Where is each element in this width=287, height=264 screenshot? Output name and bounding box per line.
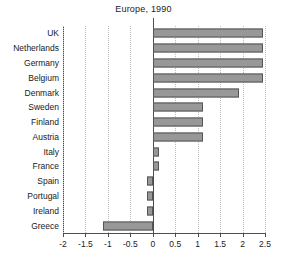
bar-row (63, 130, 265, 145)
bar-row (63, 144, 265, 159)
bar-spain (147, 177, 152, 186)
x-tick-mark-0 (63, 233, 64, 237)
y-tick-label-netherlands: Netherlands (0, 43, 59, 53)
bar-austria (153, 132, 203, 141)
bar-belgium (153, 73, 263, 82)
y-tick-label-ireland: Ireland (0, 206, 59, 216)
bar-row (63, 115, 265, 130)
bar-row (63, 174, 265, 189)
bar-italy (153, 147, 160, 156)
x-tick-mark-6 (198, 233, 199, 237)
y-tick-label-greece: Greece (0, 221, 59, 231)
y-tick-label-finland: Finland (0, 117, 59, 127)
y-tick-label-italy: Italy (0, 147, 59, 157)
y-tick-label-austria: Austria (0, 132, 59, 142)
gridline-x-9 (265, 26, 266, 233)
bar-row (63, 100, 265, 115)
bar-row (63, 70, 265, 85)
bar-row (63, 189, 265, 204)
x-tick-mark-9 (265, 233, 266, 237)
chart-title: Europe, 1990 (0, 4, 287, 14)
bar-uk (153, 29, 263, 38)
bar-denmark (153, 88, 240, 97)
y-tick-label-france: France (0, 161, 59, 171)
bar-germany (153, 58, 263, 67)
x-tick-mark-2 (108, 233, 109, 237)
bar-ireland (147, 206, 153, 215)
bar-row (63, 26, 265, 41)
bar-row (63, 56, 265, 71)
x-tick-mark-5 (175, 233, 176, 237)
x-tick-mark-4 (153, 233, 154, 237)
bar-sweden (153, 103, 203, 112)
bar-france (153, 162, 160, 171)
x-tick-mark-8 (243, 233, 244, 237)
x-tick-mark-1 (85, 233, 86, 237)
y-tick-label-uk: UK (0, 28, 59, 38)
bar-row (63, 85, 265, 100)
y-tick-label-spain: Spain (0, 176, 59, 186)
x-tick-label-9: 2.5 (245, 239, 285, 249)
y-tick-label-sweden: Sweden (0, 102, 59, 112)
x-tick-mark-7 (220, 233, 221, 237)
bar-portugal (147, 192, 153, 201)
y-tick-label-portugal: Portugal (0, 191, 59, 201)
y-tick-label-germany: Germany (0, 58, 59, 68)
bar-row (63, 203, 265, 218)
y-tick-label-belgium: Belgium (0, 73, 59, 83)
y-tick-label-denmark: Denmark (0, 88, 59, 98)
x-tick-mark-3 (130, 233, 131, 237)
bar-finland (153, 118, 203, 127)
bar-chart: Europe, 1990 UKNetherlandsGermanyBelgium… (0, 0, 287, 264)
bar-row (63, 159, 265, 174)
bar-netherlands (153, 44, 263, 53)
x-axis-spine (63, 233, 266, 234)
bar-row (63, 218, 265, 233)
bar-row (63, 41, 265, 56)
bar-greece (103, 221, 152, 230)
plot-area (63, 26, 265, 233)
